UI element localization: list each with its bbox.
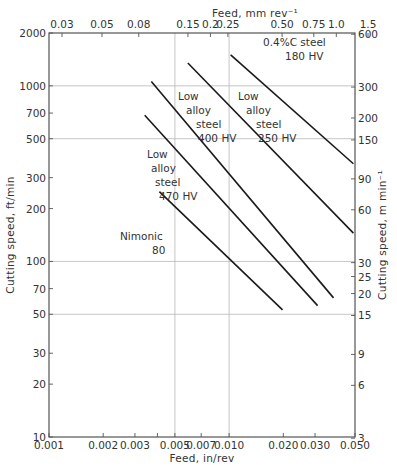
series-label: 470 HV — [159, 190, 198, 202]
y-tick-label: 10 — [33, 431, 46, 443]
y2-tick-label: 150 — [358, 134, 378, 146]
y-tick-label: 30 — [33, 347, 46, 359]
x2-tick-label: 0.15 — [176, 18, 199, 30]
x-axis-label: Feed, in/rev — [169, 452, 234, 464]
y2-tick-label: 3 — [358, 432, 365, 444]
plot-frame — [49, 33, 355, 437]
series-labels: 0.4%C steel180 HVLowalloysteel250 HVLowa… — [120, 36, 326, 256]
x-tick-label: 0.030 — [300, 439, 330, 451]
grid — [49, 33, 355, 437]
x2-tick-label: 0.08 — [127, 18, 150, 30]
y-tick-label: 500 — [26, 133, 46, 145]
y-tick-label: 100 — [26, 255, 46, 267]
x-tick-label: 0.010 — [214, 439, 244, 451]
series-label: alloy — [246, 104, 271, 116]
series-label: 400 HV — [198, 132, 237, 144]
y-tick-label: 700 — [26, 107, 46, 119]
y-tick-label: 200 — [26, 203, 46, 215]
x2-tick-label: 1.0 — [328, 18, 345, 30]
x2-tick-label: 0.75 — [302, 18, 325, 30]
series-label: alloy — [151, 162, 176, 174]
y2-tick-label: 200 — [358, 112, 378, 124]
y2-tick-label: 15 — [358, 309, 371, 321]
y-tick-label: 2000 — [19, 27, 46, 39]
x-tick-label: 0.002 — [88, 439, 118, 451]
series-label: 80 — [152, 244, 165, 256]
x-tick-label: 0.050 — [340, 439, 370, 451]
series-line — [159, 192, 282, 310]
series-label: Low — [178, 90, 199, 102]
x-tick-label: 0.007 — [186, 439, 216, 451]
series-line — [188, 63, 354, 233]
y-tick-label: 70 — [33, 283, 46, 295]
chart: 0.0010.0020.0030.0050.0070.0100.0200.030… — [0, 0, 397, 471]
series-label: steel — [196, 118, 221, 130]
x2-tick-label: 0.25 — [216, 18, 239, 30]
y2-tick-label: 30 — [358, 257, 371, 269]
x-tick-label: 0.003 — [120, 439, 150, 451]
y-tick-label: 300 — [26, 172, 46, 184]
series-label: alloy — [186, 104, 211, 116]
x2-tick-label: 0.50 — [270, 18, 293, 30]
y-axis-label: Cutting speed, ft/min — [4, 176, 16, 293]
series-label: steel — [256, 118, 281, 130]
series-label: steel — [155, 176, 180, 188]
series-label: Low — [147, 148, 168, 160]
y2-tick-label: 300 — [358, 81, 378, 93]
y2-axis-label: Cutting speed, m min⁻¹ — [376, 170, 388, 300]
y2-tick-label: 60 — [358, 204, 371, 216]
y-tick-label: 20 — [33, 378, 46, 390]
series-label: Nimonic — [120, 230, 163, 242]
y2-tick-label: 20 — [358, 288, 371, 300]
y2-tick-label: 6 — [358, 379, 365, 391]
x2-axis-label: Feed, mm rev⁻¹ — [212, 7, 298, 19]
x2-tick-label: 0.03 — [50, 18, 73, 30]
y2-tick-label: 90 — [358, 173, 371, 185]
x2-tick-label: 0.05 — [90, 18, 113, 30]
y2-tick-label: 9 — [358, 348, 365, 360]
series-label: Low — [238, 90, 259, 102]
series-label: 0.4%C steel — [263, 36, 326, 48]
ticks: 0.0010.0020.0030.0050.0070.0100.0200.030… — [19, 18, 378, 451]
y-tick-label: 1000 — [19, 80, 46, 92]
series-label: 180 HV — [285, 50, 324, 62]
y2-tick-label: 600 — [358, 28, 378, 40]
x-tick-label: 0.020 — [268, 439, 298, 451]
series-label: 250 HV — [258, 132, 297, 144]
y-tick-label: 50 — [33, 308, 46, 320]
y2-tick-label: 25 — [358, 271, 371, 283]
